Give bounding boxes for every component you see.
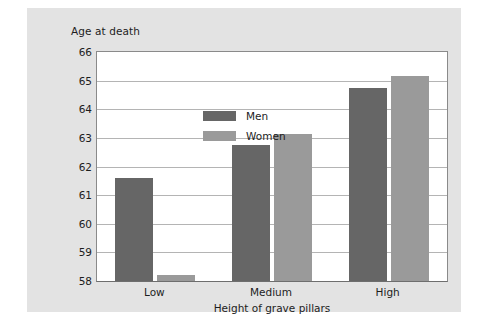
bars-layer [97,52,447,281]
y-axis-tick-label: 62 [79,161,92,173]
chart-screenshot: Age at death 585960616263646566 Men Wome… [0,0,487,325]
x-axis-tick-label: High [376,286,400,298]
y-axis-tick-label: 66 [79,46,92,58]
bar-women-high [391,76,429,281]
bar-women-medium [274,134,312,281]
x-axis-tick-labels: LowMediumHigh [96,286,448,302]
y-axis-tick-label: 65 [79,75,92,87]
y-axis-tick-label: 63 [79,132,92,144]
bar-men-low [115,178,153,281]
y-axis-tick-label: 60 [79,218,92,230]
legend: Men Women [203,107,313,147]
x-axis-title: Height of grave pillars [96,302,448,314]
legend-swatch-men [203,111,236,121]
y-axis-tick-label: 61 [79,189,92,201]
y-axis-tick-label: 59 [79,246,92,258]
chart-panel: Age at death 585960616263646566 Men Wome… [27,8,461,312]
legend-item-women: Women [203,127,313,145]
legend-label-women: Women [246,130,286,142]
bar-men-medium [232,145,270,281]
plot-inner [97,52,447,281]
legend-label-men: Men [246,110,268,122]
bar-men-high [349,88,387,281]
y-axis-title: Age at death [71,25,140,37]
x-axis-tick-label: Medium [250,286,292,298]
y-axis-tick-label: 64 [79,103,92,115]
y-axis-tick-labels: 585960616263646566 [67,51,92,282]
y-axis-tick-label: 58 [79,275,92,287]
x-axis-tick-label: Low [144,286,165,298]
plot-area: Men Women [96,51,448,282]
legend-item-men: Men [203,107,313,125]
bar-women-low [157,275,195,281]
legend-swatch-women [203,131,236,141]
